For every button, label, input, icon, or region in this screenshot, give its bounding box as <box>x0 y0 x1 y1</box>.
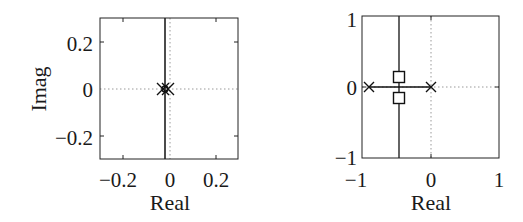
right-xtick-neg1: −1 <box>345 168 367 192</box>
left-xtick-neg0.2: −0.2 <box>99 168 137 192</box>
left-xlabel: Real <box>150 190 190 215</box>
figure: 0.2 0 −0.2 −0.2 0 0.2 Real Imag 1 0 −1 −… <box>0 0 523 222</box>
right-xtick-1: 1 <box>494 168 505 192</box>
left-xtick-0.2: 0.2 <box>203 168 229 192</box>
left-plot: 0.2 0 −0.2 −0.2 0 0.2 Real Imag <box>26 18 238 215</box>
right-ytick-neg1: −1 <box>335 146 357 170</box>
left-ytick-0.2: 0.2 <box>67 32 93 56</box>
right-xtick-0: 0 <box>426 168 437 192</box>
right-plot: 1 0 −1 −1 0 1 Real <box>335 8 505 215</box>
left-ytick-neg0.2: −0.2 <box>55 126 93 150</box>
closed-loop-square-marker <box>394 72 405 83</box>
left-ytick-0: 0 <box>83 78 94 102</box>
right-ytick-0: 0 <box>347 76 358 100</box>
right-ytick-1: 1 <box>347 8 358 32</box>
left-ylabel: Imag <box>26 66 51 111</box>
right-xlabel: Real <box>411 190 451 215</box>
left-xtick-0: 0 <box>165 168 176 192</box>
closed-loop-square-marker <box>394 93 405 104</box>
